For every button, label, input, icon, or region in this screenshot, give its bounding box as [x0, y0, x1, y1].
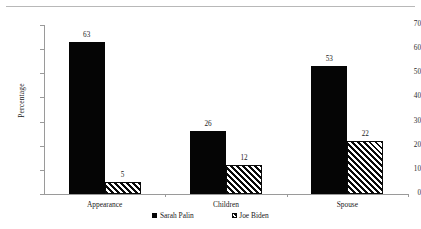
- bar-value-label: 53: [311, 56, 347, 63]
- y-axis-tick-label: 20: [387, 142, 421, 149]
- y-axis-tick-label: 50: [387, 69, 421, 76]
- bar-sarah-palin-children[interactable]: [190, 131, 226, 194]
- y-axis-tick-label: 70: [387, 21, 421, 28]
- y-axis-tick: [40, 73, 44, 74]
- y-axis-tick-label: 30: [387, 118, 421, 125]
- x-axis-category-label: Appearance: [44, 200, 165, 209]
- y-axis-tick: [40, 97, 44, 98]
- y-axis-tick-label: 40: [387, 93, 421, 100]
- bar-joe-biden-children[interactable]: [226, 165, 262, 194]
- x-axis-line: [44, 194, 408, 195]
- chart-legend: Sarah Palin Joe Biden: [0, 212, 421, 219]
- plot-area: Percentage 010203040506070 63526125322 A…: [0, 0, 421, 229]
- y-axis-tick: [40, 49, 44, 50]
- x-axis-tick: [408, 194, 409, 197]
- bar-value-label: 5: [105, 172, 141, 179]
- y-axis-tick: [40, 194, 44, 195]
- y-axis-title: Percentage: [17, 66, 26, 136]
- y-axis-tick: [40, 25, 44, 26]
- x-axis-tick: [287, 194, 288, 197]
- bar-sarah-palin-spouse[interactable]: [311, 66, 347, 194]
- legend-item-sarah-palin[interactable]: Sarah Palin: [152, 212, 193, 219]
- x-axis-tick: [165, 194, 166, 197]
- y-axis-tick-label: 10: [387, 166, 421, 173]
- y-axis-tick: [40, 146, 44, 147]
- y-axis-tick: [40, 122, 44, 123]
- bar-value-label: 12: [226, 155, 262, 162]
- bar-value-label: 63: [69, 32, 105, 39]
- bar-chart: Percentage 010203040506070 63526125322 A…: [0, 0, 421, 229]
- bar-sarah-palin-appearance[interactable]: [69, 42, 105, 194]
- y-axis-tick: [40, 170, 44, 171]
- legend-item-label: Joe Biden: [239, 212, 268, 219]
- bar-value-label: 22: [347, 131, 383, 138]
- x-axis-category-label: Children: [165, 200, 286, 209]
- legend-item-joe-biden[interactable]: Joe Biden: [232, 212, 269, 219]
- bar-joe-biden-spouse[interactable]: [347, 141, 383, 194]
- bar-joe-biden-appearance[interactable]: [105, 182, 141, 194]
- y-axis-line: [44, 25, 45, 195]
- hatched-square-icon: [232, 213, 237, 218]
- x-axis-category-label: Spouse: [287, 200, 408, 209]
- bar-value-label: 26: [190, 121, 226, 128]
- legend-item-label: Sarah Palin: [160, 212, 194, 219]
- y-axis-tick-label: 0: [387, 190, 421, 197]
- y-axis-tick-label: 60: [387, 45, 421, 52]
- solid-square-icon: [152, 213, 157, 218]
